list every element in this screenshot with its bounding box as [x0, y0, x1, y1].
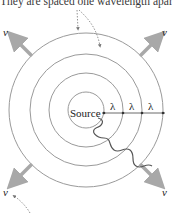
arrow-up-right-icon — [140, 38, 158, 56]
bottom-leader — [14, 196, 30, 213]
arrow-down-left-icon — [14, 164, 32, 182]
wavelength-label-2: λ — [129, 100, 135, 112]
velocity-label-br: v — [162, 186, 167, 198]
velocity-label-tr: v — [162, 26, 167, 38]
wavefront-diagram: v v v v λ λ λ Source — [0, 0, 172, 213]
wavelength-label-3: λ — [148, 100, 154, 112]
velocity-label-bl: v — [3, 186, 8, 198]
wavelength-markers — [102, 112, 165, 115]
arrow-up-left-icon — [14, 38, 32, 56]
source-label: Source — [70, 107, 101, 119]
wavelength-label-1: λ — [110, 100, 116, 112]
velocity-label-tl: v — [3, 26, 8, 38]
wave-curve — [94, 118, 152, 167]
caption-leaders — [77, 10, 100, 46]
